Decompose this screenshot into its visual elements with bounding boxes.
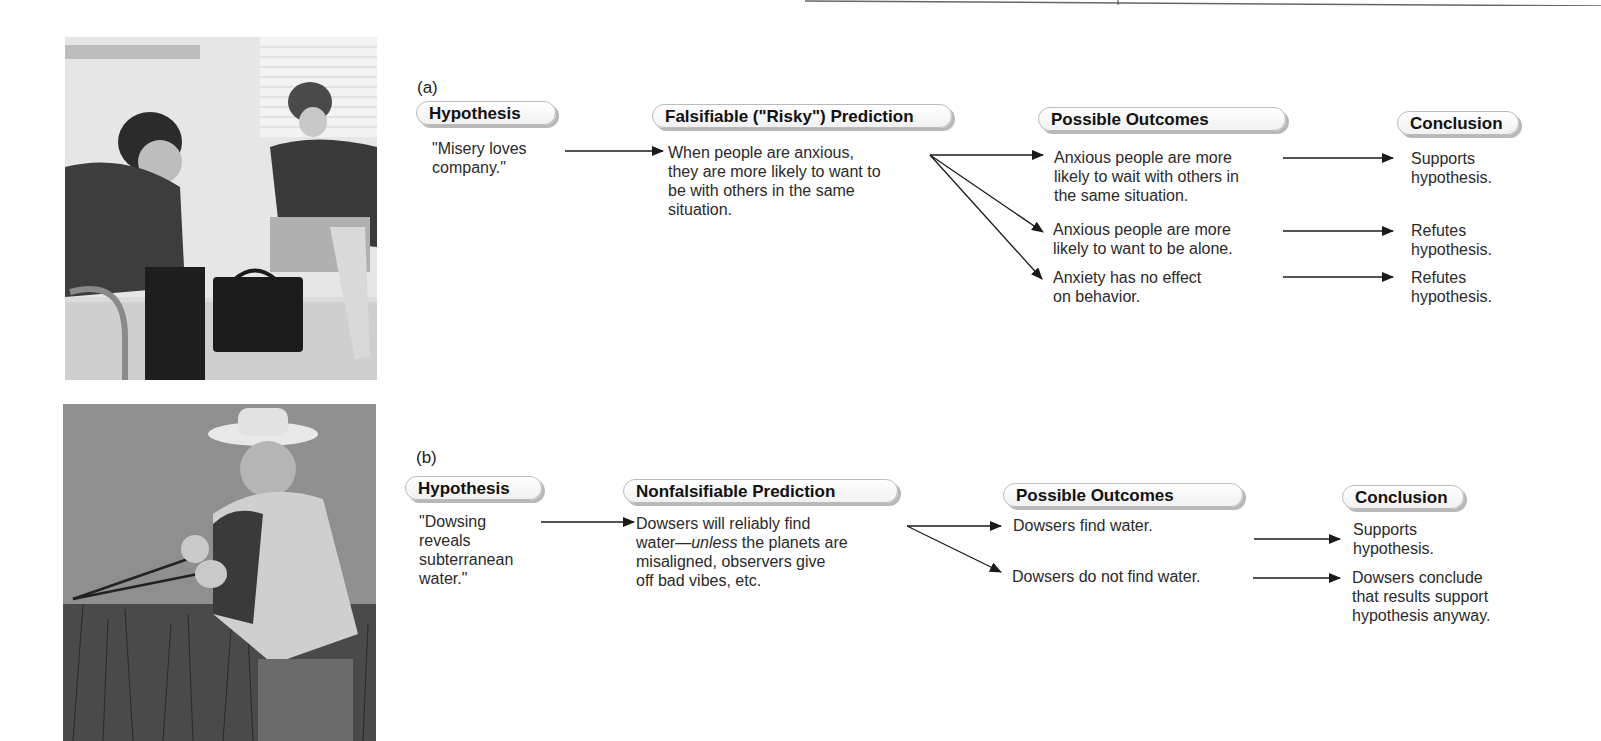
outcome-a-3: Anxiety has no effect on behavior. (1053, 268, 1201, 306)
panel-b-label: (b) (416, 448, 437, 468)
prediction-text-b-line2: water—unless the planets are (636, 533, 848, 552)
conclusion-a-2: Refutes hypothesis. (1411, 221, 1492, 259)
outcomes-header-b: Possible Outcomes (1003, 483, 1243, 507)
conclusion-header-a: Conclusion (1397, 111, 1519, 135)
panel-a-label: (a) (417, 78, 438, 98)
hypothesis-header-b: Hypothesis (405, 476, 542, 500)
hypothesis-header-a: Hypothesis (416, 101, 556, 125)
prediction-header-b: Nonfalsifiable Prediction (623, 479, 898, 503)
conclusion-a-3: Refutes hypothesis. (1411, 268, 1492, 306)
outcome-a-2: Anxious people are more likely to want t… (1053, 220, 1233, 258)
conclusion-a-1: Supports hypothesis. (1411, 149, 1492, 187)
conclusion-b-2: Dowsers conclude that results support hy… (1352, 568, 1490, 625)
prediction-text-b: Dowsers will reliably find water—unless … (636, 514, 848, 590)
outcome-b-2: Dowsers do not find water. (1012, 567, 1201, 586)
prediction-text-a: When people are anxious, they are more l… (668, 143, 881, 219)
hypothesis-text-b: "Dowsing reveals subterranean water." (419, 512, 513, 588)
outcome-a-1: Anxious people are more likely to wait w… (1054, 148, 1239, 205)
hypothesis-text-a: "Misery loves company." (432, 139, 527, 177)
conclusion-b-1: Supports hypothesis. (1353, 520, 1434, 558)
prediction-header-a: Falsifiable ("Risky") Prediction (652, 104, 952, 128)
outcomes-header-a: Possible Outcomes (1038, 107, 1286, 131)
outcome-b-1: Dowsers find water. (1013, 516, 1153, 535)
conclusion-header-b: Conclusion (1342, 485, 1464, 509)
